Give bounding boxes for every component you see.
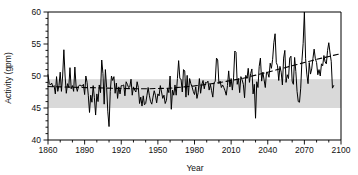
y-tick-label: 40: [32, 135, 42, 145]
x-tick-label: 1980: [185, 145, 204, 155]
y-axis-title: Activity (gpm): [3, 52, 13, 104]
x-tick-label: 2010: [222, 145, 241, 155]
chart-figure: 1860189019201950198020102040207021004045…: [0, 0, 358, 175]
x-tick-label: 1950: [148, 145, 167, 155]
x-tick-label: 2100: [332, 145, 351, 155]
activity-timeseries-chart: 1860189019201950198020102040207021004045…: [0, 0, 358, 175]
y-tick-label: 45: [32, 103, 42, 113]
x-axis-title: Year: [186, 163, 203, 173]
x-tick-label: 2070: [295, 145, 314, 155]
x-tick-label: 1860: [39, 145, 58, 155]
x-tick-label: 2040: [258, 145, 277, 155]
y-tick-label: 50: [32, 71, 42, 81]
y-tick-label: 55: [32, 39, 42, 49]
y-tick-label: 60: [32, 7, 42, 17]
x-tick-label: 1890: [75, 145, 94, 155]
x-tick-label: 1920: [112, 145, 131, 155]
